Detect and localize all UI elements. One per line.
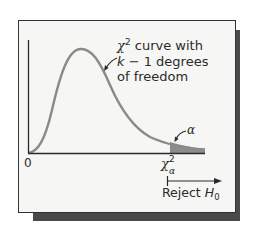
critical-superscript: 2	[169, 155, 175, 164]
h-symbol: H	[205, 185, 214, 200]
curve-pointer-arrow	[106, 58, 117, 68]
chi-symbol: χ	[117, 38, 125, 53]
reject-text: Reject	[162, 185, 205, 200]
alpha-pointer-arrow	[176, 131, 186, 139]
critical-value-label: χ 2 α	[161, 157, 169, 170]
alpha-label: α	[187, 124, 195, 136]
curve-annotation-line3: of freedom	[117, 69, 208, 85]
curve-annotation-line1: χ2 curve with	[117, 38, 208, 54]
curve-annotation-text: curve with	[131, 38, 203, 53]
critical-chi-symbol: χ	[161, 156, 169, 171]
degrees-text: − 1 degrees	[125, 54, 209, 69]
critical-subscript: α	[169, 167, 175, 176]
h-subscript: 0	[214, 192, 219, 202]
k-variable: k	[117, 54, 125, 69]
curve-annotation: χ2 curve with k − 1 degrees of freedom	[117, 38, 208, 85]
curve-annotation-line2: k − 1 degrees	[117, 54, 208, 70]
origin-label: 0	[24, 157, 32, 169]
reject-region-arrowhead	[214, 178, 222, 184]
reject-h0-label: Reject H0	[162, 187, 220, 200]
